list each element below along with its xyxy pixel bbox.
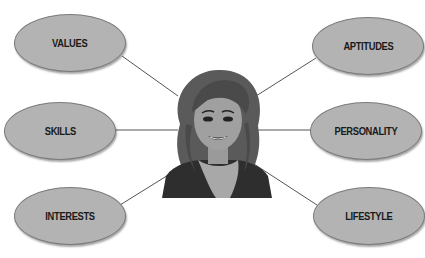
node-lifestyle: LIFESTYLE: [313, 187, 425, 245]
node-label: VALUES: [52, 37, 87, 49]
node-values: VALUES: [14, 14, 126, 72]
node-label: INTERESTS: [45, 210, 94, 222]
node-label: LIFESTYLE: [345, 210, 392, 222]
node-label: PERSONALITY: [335, 125, 398, 137]
node-label: APTITUDES: [343, 40, 393, 52]
node-aptitudes: APTITUDES: [312, 17, 424, 75]
node-interests: INTERESTS: [14, 187, 126, 245]
woman-portrait-icon: [158, 64, 276, 198]
node-skills: SKILLS: [4, 102, 116, 160]
node-personality: PERSONALITY: [310, 102, 422, 160]
node-label: SKILLS: [44, 125, 75, 137]
